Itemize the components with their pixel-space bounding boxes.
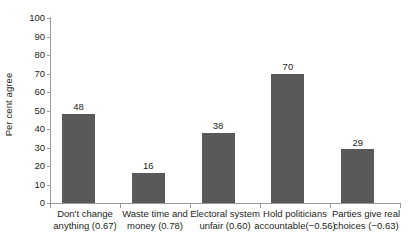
y-tick-mark xyxy=(47,111,51,112)
y-tick-label: 0 xyxy=(40,197,45,208)
x-category-label-line1: Electoral system xyxy=(190,208,260,219)
y-tick-mark xyxy=(47,185,51,186)
y-tick-mark xyxy=(47,148,51,149)
y-tick-mark xyxy=(47,37,51,38)
bar-value-label: 38 xyxy=(202,120,235,131)
x-category-label-line1: Waste time and xyxy=(122,208,188,219)
y-tick-mark xyxy=(47,18,51,19)
x-category-label-line1: Hold politicians xyxy=(263,208,327,219)
y-tick-label: 90 xyxy=(34,31,45,42)
y-axis-title: Per cent agree xyxy=(2,3,16,206)
y-tick-label: 80 xyxy=(34,49,45,60)
bar-chart: Per cent agree 100 90 80 70 60 50 xyxy=(0,0,410,249)
y-tick-mark xyxy=(47,92,51,93)
y-tick-label: 10 xyxy=(34,179,45,190)
y-tick-mark xyxy=(47,55,51,56)
y-tick-label: 60 xyxy=(34,86,45,97)
x-category-label-line2: choices (−0.63) xyxy=(324,220,408,232)
y-tick-label: 40 xyxy=(34,123,45,134)
plot-area: 100 90 80 70 60 50 40 30 xyxy=(51,18,400,203)
bar-value-label: 16 xyxy=(132,160,165,171)
bar-dont-change-anything[interactable] xyxy=(62,114,95,203)
y-tick-mark xyxy=(47,166,51,167)
bar-value-label: 70 xyxy=(271,61,304,72)
y-tick-mark xyxy=(47,129,51,130)
bar-waste-time-and-money[interactable] xyxy=(132,173,165,203)
bar-value-label: 48 xyxy=(62,101,95,112)
x-category-label-line1: Parties give real xyxy=(332,208,400,219)
y-tick-mark xyxy=(47,74,51,75)
bar-value-label: 29 xyxy=(341,137,374,148)
x-axis-line xyxy=(50,203,401,204)
x-category-label-line1: Don't change xyxy=(57,208,113,219)
y-tick-label: 100 xyxy=(29,12,45,23)
bar-electoral-system-unfair[interactable] xyxy=(202,133,235,203)
x-category-label-parties-give-real-choices: Parties give real choices (−0.63) xyxy=(324,208,408,231)
y-tick-label: 30 xyxy=(34,142,45,153)
bar-parties-give-real-choices[interactable] xyxy=(341,149,374,203)
y-tick-label: 50 xyxy=(34,105,45,116)
y-tick-label: 20 xyxy=(34,160,45,171)
bar-hold-politicians-accountable[interactable] xyxy=(271,74,304,204)
y-tick-label: 70 xyxy=(34,68,45,79)
